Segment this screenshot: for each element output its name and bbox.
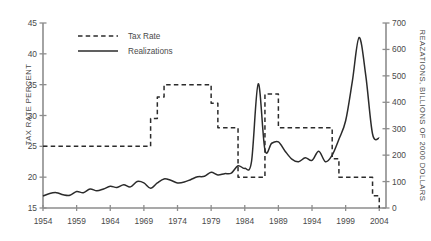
y-tick-label-left: 45 [28, 18, 38, 28]
y-tick-label-right: 0 [392, 203, 397, 213]
y-tick-label-left: 15 [28, 203, 38, 213]
x-tick-label: 2004 [370, 216, 389, 226]
legend-label-tax-rate: Tax Rate [128, 32, 161, 41]
y-tick-label-right: 700 [392, 18, 406, 28]
y-tick-label-left: 35 [28, 80, 38, 90]
y-tick-label-left: 20 [28, 172, 38, 182]
x-tick-label: 1969 [135, 216, 154, 226]
chart-figure: TAX RATE PERCENT REAZATIONS, BILLIONS OF… [0, 0, 431, 241]
plot-area: 1520253035404501002003004005006007001954… [0, 0, 431, 241]
x-tick-label: 1974 [168, 216, 187, 226]
y-tick-label-right: 300 [392, 124, 406, 134]
y-tick-label-left: 40 [28, 49, 38, 59]
y-tick-label-right: 400 [392, 97, 406, 107]
y-tick-label-left: 25 [28, 141, 38, 151]
y-tick-label-right: 600 [392, 44, 406, 54]
series-line-realizations [43, 38, 379, 197]
x-tick-label: 1994 [303, 216, 322, 226]
legend-label-realizations: Realizations [128, 47, 173, 56]
y-tick-label-right: 200 [392, 150, 406, 160]
x-tick-label: 1999 [336, 216, 355, 226]
x-tick-label: 1959 [67, 216, 86, 226]
x-tick-label: 1989 [269, 216, 288, 226]
x-tick-label: 1954 [34, 216, 53, 226]
x-tick-label: 1964 [101, 216, 120, 226]
x-tick-label: 1979 [202, 216, 221, 226]
x-tick-label: 1984 [235, 216, 254, 226]
y-tick-label-right: 100 [392, 177, 406, 187]
y-tick-label-right: 500 [392, 71, 406, 81]
y-tick-label-left: 30 [28, 111, 38, 121]
